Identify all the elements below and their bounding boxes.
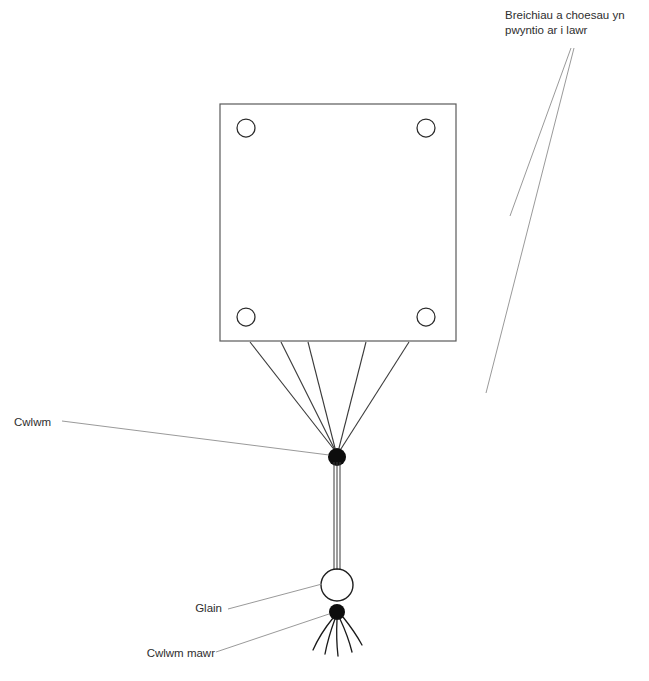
label-big-knot: Cwlwm mawr bbox=[120, 646, 215, 661]
leader-bead bbox=[228, 584, 322, 609]
tassel-fibre-2 bbox=[325, 619, 335, 654]
bead-circle bbox=[321, 569, 353, 601]
tassel-group bbox=[313, 617, 362, 656]
body-square bbox=[220, 104, 456, 341]
thread-3 bbox=[308, 342, 336, 452]
leader-limbs-upper bbox=[510, 48, 571, 216]
tassel-fibre-3 bbox=[337, 620, 338, 656]
leg-lower-right-fill bbox=[438, 342, 578, 523]
big-knot-dot bbox=[329, 604, 345, 620]
arm-upper-right-fill bbox=[455, 143, 606, 310]
cord-group bbox=[334, 462, 340, 570]
tassel-fibre-4 bbox=[340, 619, 352, 652]
thread-1 bbox=[250, 342, 336, 452]
label-knot: Cwlwm bbox=[14, 415, 74, 430]
thread-2 bbox=[281, 342, 336, 452]
diagram-canvas: Breichiau a choesau yn pwyntio ar i lawr… bbox=[0, 0, 649, 681]
label-limbs: Breichiau a choesau yn pwyntio ar i lawr bbox=[505, 8, 645, 38]
thread-5 bbox=[339, 342, 409, 452]
leader-knot bbox=[62, 421, 329, 455]
label-bead: Glain bbox=[172, 601, 222, 616]
threads-group bbox=[250, 342, 409, 452]
leader-big-knot bbox=[216, 614, 329, 652]
leader-limbs-lower bbox=[486, 48, 574, 393]
arm-upper-left-fill bbox=[80, 143, 221, 320]
thread-4 bbox=[338, 342, 366, 452]
diagram-svg bbox=[0, 0, 649, 681]
